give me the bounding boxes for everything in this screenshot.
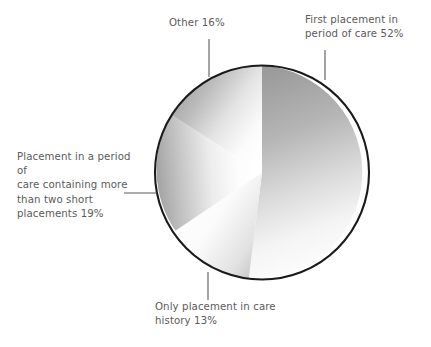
pie-label-first-placement-in-period-of-care: First placement in period of care 52% bbox=[305, 13, 427, 41]
pie-label-other: Other 16% bbox=[169, 16, 259, 30]
pie-label-only-placement-in-care-history: Only placement in care history 13% bbox=[155, 300, 295, 328]
pie-label-placement-in-period-of-care-more-than-two-short: Placement in a period of care containing… bbox=[17, 150, 139, 221]
pie-slice-first-placement-in-period-of-care bbox=[249, 66, 363, 280]
pie-chart-figure: First placement in period of care 52% Ot… bbox=[0, 0, 431, 347]
